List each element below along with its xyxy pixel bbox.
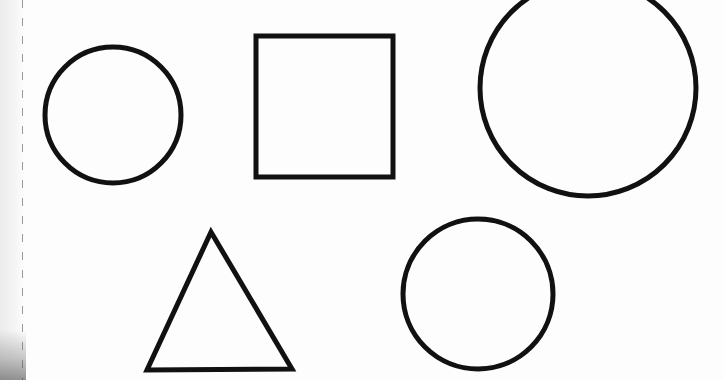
square — [256, 36, 393, 177]
shapes-drawing — [0, 0, 724, 380]
small-circle-top-left — [45, 47, 181, 183]
worksheet-page — [0, 0, 724, 380]
large-circle-top-right — [480, 0, 696, 196]
circle-bottom — [403, 219, 553, 369]
triangle — [147, 232, 292, 370]
